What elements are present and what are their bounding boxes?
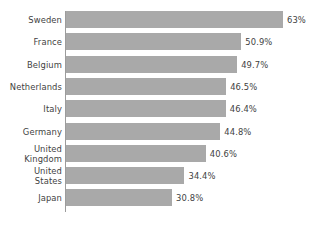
category-label-line: Netherlands <box>10 82 62 92</box>
bar-row: Italy46.4% <box>0 98 329 120</box>
category-label-line: Belgium <box>27 60 62 70</box>
bar-row: UnitedKingdom40.6% <box>0 143 329 165</box>
bar[interactable] <box>66 100 226 117</box>
bar-value-label: 34.4% <box>184 165 215 187</box>
bar[interactable] <box>66 78 226 95</box>
bar-row: Germany44.8% <box>0 121 329 143</box>
category-label-line: Italy <box>43 104 62 114</box>
bar[interactable] <box>66 123 220 140</box>
bar[interactable] <box>66 33 241 50</box>
bar-row: Belgium49.7% <box>0 54 329 76</box>
category-label-line: Germany <box>23 127 62 137</box>
bar-chart: Sweden63%France50.9%Belgium49.7%Netherla… <box>0 0 329 230</box>
bar-row: France50.9% <box>0 31 329 53</box>
category-label-line: Japan <box>38 193 62 203</box>
category-label: Japan <box>0 187 62 209</box>
category-label-line: Sweden <box>28 15 62 25</box>
plot-area: Sweden63%France50.9%Belgium49.7%Netherla… <box>0 9 329 213</box>
category-label: Sweden <box>0 9 62 31</box>
category-label-line: States <box>35 176 62 186</box>
category-label: UnitedStates <box>0 165 62 187</box>
bar-row: Sweden63% <box>0 9 329 31</box>
category-label: Germany <box>0 121 62 143</box>
bar[interactable] <box>66 145 206 162</box>
bar[interactable] <box>66 11 283 28</box>
bar-row: Japan30.8% <box>0 187 329 209</box>
category-label: UnitedKingdom <box>0 143 62 165</box>
category-label: Belgium <box>0 54 62 76</box>
category-label-line: Kingdom <box>24 154 62 164</box>
category-label-line: United <box>34 144 62 154</box>
category-label-line: France <box>34 37 62 47</box>
bar-row: Netherlands46.5% <box>0 76 329 98</box>
bar-value-label: 44.8% <box>220 121 251 143</box>
bar-value-label: 46.5% <box>226 76 257 98</box>
category-label: Italy <box>0 98 62 120</box>
bar-value-label: 40.6% <box>206 143 237 165</box>
bar-value-label: 49.7% <box>237 54 268 76</box>
bar-row: UnitedStates34.4% <box>0 165 329 187</box>
category-label: Netherlands <box>0 76 62 98</box>
bar[interactable] <box>66 56 237 73</box>
category-label-line: United <box>34 166 62 176</box>
bar[interactable] <box>66 189 172 206</box>
category-label: France <box>0 31 62 53</box>
bar-value-label: 50.9% <box>241 31 272 53</box>
bar-value-label: 30.8% <box>172 187 203 209</box>
bar-value-label: 63% <box>283 9 306 31</box>
bar-value-label: 46.4% <box>226 98 257 120</box>
bar[interactable] <box>66 167 184 184</box>
